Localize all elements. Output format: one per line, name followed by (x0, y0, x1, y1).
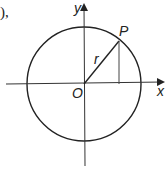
unit-circle-diagram: y x O P r (0, 0, 167, 170)
y-axis (84, 5, 85, 166)
x-axis-label: x (156, 83, 165, 99)
point-p-label: P (119, 23, 129, 39)
y-axis-label: y (73, 0, 82, 16)
origin-label: O (72, 85, 83, 101)
radius-line (84, 41, 119, 84)
